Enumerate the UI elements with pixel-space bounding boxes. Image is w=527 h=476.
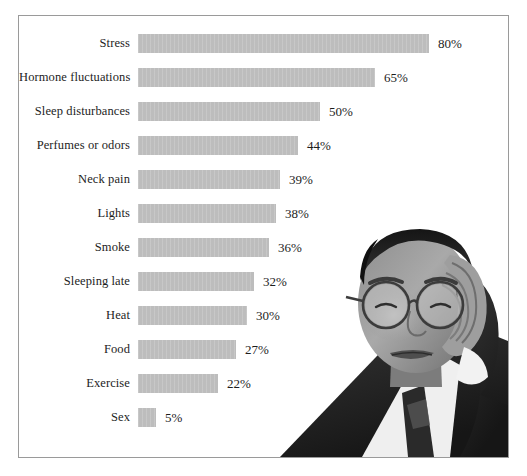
bar-value-label: 5% [156, 411, 182, 424]
bar [138, 204, 276, 223]
bar-value-label: 22% [218, 377, 251, 390]
category-label: Perfumes or odors [19, 139, 138, 152]
bar-value-label: 44% [298, 139, 331, 152]
category-label: Heat [19, 309, 138, 322]
bar-track: 50% [138, 102, 508, 121]
bar-track: 80% [138, 34, 508, 53]
bar-chart-row: Exercise22% [19, 374, 508, 393]
bar-chart-row: Smoke36% [19, 238, 508, 257]
bar-chart-row: Sleeping late32% [19, 272, 508, 291]
bar [138, 272, 254, 291]
bar-chart-row: Food27% [19, 340, 508, 359]
bar-value-label: 39% [280, 173, 313, 186]
bar-value-label: 50% [320, 105, 353, 118]
category-label: Smoke [19, 241, 138, 254]
bar [138, 34, 429, 53]
bar-track: 27% [138, 340, 508, 359]
bar-track: 32% [138, 272, 508, 291]
category-label: Sex [19, 411, 138, 424]
bar [138, 68, 375, 87]
bar-track: 30% [138, 306, 508, 325]
bar-chart-row: Lights38% [19, 204, 508, 223]
bar [138, 102, 320, 121]
bar [138, 306, 247, 325]
bar-value-label: 80% [429, 37, 462, 50]
bar-value-label: 30% [247, 309, 280, 322]
bar-chart-row: Perfumes or odors44% [19, 136, 508, 155]
bar-track: 39% [138, 170, 508, 189]
bar-chart-row: Sex5% [19, 408, 508, 427]
category-label: Hormone fluctuations [19, 71, 138, 84]
chart-frame: Stress80%Hormone fluctuations65%Sleep di… [18, 15, 509, 458]
bar [138, 408, 156, 427]
bar-value-label: 27% [236, 343, 269, 356]
category-label: Lights [19, 207, 138, 220]
category-label: Neck pain [19, 173, 138, 186]
category-label: Sleep disturbances [19, 105, 138, 118]
bar-track: 65% [138, 68, 508, 87]
bar-chart-row: Hormone fluctuations65% [19, 68, 508, 87]
bar-value-label: 65% [375, 71, 408, 84]
bar-value-label: 36% [269, 241, 302, 254]
bar-track: 22% [138, 374, 508, 393]
bar-track: 36% [138, 238, 508, 257]
bar [138, 170, 280, 189]
bar-chart-row: Neck pain39% [19, 170, 508, 189]
category-label: Exercise [19, 377, 138, 390]
bar-value-label: 38% [276, 207, 309, 220]
bar-track: 5% [138, 408, 508, 427]
bar [138, 374, 218, 393]
bar-chart-row: Sleep disturbances50% [19, 102, 508, 121]
bar-chart-rows: Stress80%Hormone fluctuations65%Sleep di… [19, 16, 508, 457]
category-label: Food [19, 343, 138, 356]
bar-chart-row: Stress80% [19, 34, 508, 53]
category-label: Stress [19, 37, 138, 50]
bar-value-label: 32% [254, 275, 287, 288]
bar-chart-row: Heat30% [19, 306, 508, 325]
bar [138, 340, 236, 359]
category-label: Sleeping late [19, 275, 138, 288]
bar-track: 38% [138, 204, 508, 223]
bar-track: 44% [138, 136, 508, 155]
bar [138, 136, 298, 155]
bar [138, 238, 269, 257]
